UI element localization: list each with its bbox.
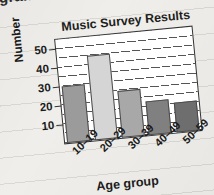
- y-axis-tick-label: 20: [39, 100, 53, 113]
- y-axis-tick: [56, 124, 63, 126]
- y-axis-tick: [51, 68, 58, 70]
- y-axis-tick-label: 50: [34, 44, 48, 57]
- y-axis-title: Number: [8, 17, 26, 63]
- y-axis-tick-label: 40: [36, 63, 50, 76]
- y-axis-tick-label: 10: [41, 119, 55, 132]
- y-axis-tick: [53, 87, 60, 89]
- y-axis-tick: [55, 106, 62, 108]
- y-axis-tick-label: 30: [37, 81, 51, 94]
- bar-chart-figure: Music Survey Results Number 1020304050 1…: [0, 0, 214, 195]
- y-axis-tick: [49, 49, 56, 51]
